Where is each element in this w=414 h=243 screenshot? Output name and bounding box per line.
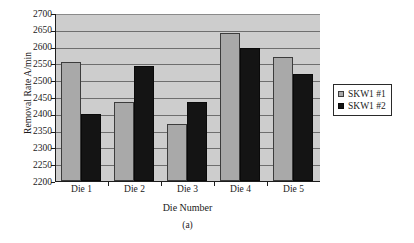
x-tick-label: Die 2 — [108, 184, 161, 194]
y-tick-label: 2450 — [14, 94, 52, 103]
y-tick-mark — [51, 115, 55, 116]
chart-legend: SKW1 #1 SKW1 #2 — [333, 84, 392, 116]
y-tick-label: 2200 — [14, 178, 52, 187]
y-tick-label: 2350 — [14, 127, 52, 136]
y-tick-mark — [51, 132, 55, 133]
y-tick-mark — [51, 148, 55, 149]
y-tick-mark — [51, 48, 55, 49]
legend-swatch-series-2 — [338, 103, 344, 109]
y-tick-mark — [51, 165, 55, 166]
x-tick-mark — [267, 182, 268, 186]
bar-chart-figure: Removal Rate A/min 220022502300235024002… — [0, 0, 414, 243]
y-tick-mark — [51, 64, 55, 65]
x-axis-tick-labels: Die 1Die 2Die 3Die 4Die 5 — [55, 184, 320, 198]
y-tick-mark — [51, 31, 55, 32]
x-tick-label: Die 4 — [214, 184, 267, 194]
x-axis-title: Die Number — [55, 202, 320, 213]
legend-label-series-2: SKW1 #2 — [348, 101, 386, 112]
bar-die-4-series-1 — [220, 33, 240, 182]
x-tick-label: Die 5 — [267, 184, 320, 194]
x-tick-mark — [108, 182, 109, 186]
bar-series-container — [56, 14, 320, 181]
y-tick-label: 2650 — [14, 26, 52, 35]
x-tick-mark — [161, 182, 162, 186]
y-tick-label: 2500 — [14, 77, 52, 86]
bar-die-2-series-2 — [134, 66, 154, 181]
y-tick-mark — [51, 81, 55, 82]
x-tick-label: Die 3 — [161, 184, 214, 194]
y-tick-label: 2600 — [14, 43, 52, 52]
y-tick-label: 2400 — [14, 110, 52, 119]
y-tick-mark — [51, 182, 55, 183]
bar-die-4-series-2 — [240, 48, 260, 181]
y-tick-label: 2700 — [14, 10, 52, 19]
plot-area — [55, 14, 320, 182]
bar-die-1-series-1 — [61, 62, 81, 181]
y-tick-label: 2250 — [14, 161, 52, 170]
bar-die-3-series-1 — [167, 124, 187, 181]
y-axis-tick-labels: 2200225023002350240024502500255026002650… — [14, 14, 52, 182]
bar-die-3-series-2 — [187, 102, 207, 181]
y-tick-label: 2550 — [14, 60, 52, 69]
bar-die-5-series-2 — [293, 74, 313, 181]
bar-die-1-series-2 — [81, 114, 101, 181]
legend-swatch-series-1 — [338, 91, 344, 97]
y-tick-mark — [51, 14, 55, 15]
x-tick-mark — [214, 182, 215, 186]
x-tick-label: Die 1 — [55, 184, 108, 194]
y-tick-mark — [51, 98, 55, 99]
legend-label-series-1: SKW1 #1 — [348, 89, 386, 100]
bar-die-5-series-1 — [273, 57, 293, 181]
bar-die-2-series-1 — [114, 102, 134, 181]
legend-item: SKW1 #1 — [338, 88, 386, 100]
figure-caption: (a) — [55, 220, 320, 230]
y-tick-label: 2300 — [14, 144, 52, 153]
legend-item: SKW1 #2 — [338, 100, 386, 112]
